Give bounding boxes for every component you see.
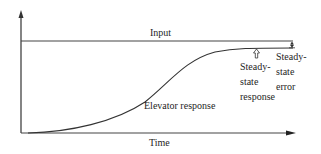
steady-state-error-line-1: Steady-	[276, 51, 307, 62]
steady-state-error-line-3: error	[276, 81, 307, 92]
steady-state-error-label: Steady- state error	[276, 51, 307, 92]
steady-state-response-line-2: state	[240, 76, 275, 87]
steady-state-response-line-1: Steady-	[240, 61, 275, 72]
steady-state-error-arrow-icon	[289, 42, 295, 48]
steady-state-error-line-2: state	[276, 66, 307, 77]
x-axis	[21, 131, 296, 136]
y-axis-arrow-icon	[19, 10, 24, 18]
x-axis-arrow-icon	[286, 131, 296, 136]
time-label: Time	[149, 137, 170, 148]
steady-state-response-label: Steady- state response	[240, 61, 275, 102]
y-axis	[19, 10, 24, 133]
steady-state-arrow-icon	[254, 49, 260, 58]
steady-state-response-line-3: response	[240, 91, 275, 102]
elevator-response-label: Elevator response	[144, 100, 215, 111]
input-label: Input	[150, 27, 171, 38]
